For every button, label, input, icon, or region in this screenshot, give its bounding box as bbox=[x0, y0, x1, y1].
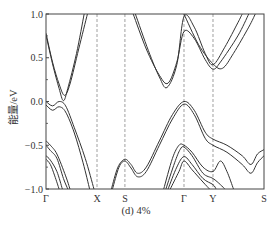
y-axis-label: 能量/eV bbox=[2, 72, 22, 142]
band-VB12 bbox=[170, 161, 209, 189]
x-tick-label: S bbox=[122, 193, 128, 204]
band-curves bbox=[46, 14, 264, 189]
band-structure-chart: 1.00.50.0−0.5−1.0 ΓXSΓYS bbox=[0, 0, 272, 225]
x-axis-ticks: ΓXSΓYS bbox=[43, 193, 267, 204]
y-axis-label-text: 能量/eV bbox=[5, 89, 20, 124]
x-tick-label: Γ bbox=[181, 193, 187, 204]
y-tick-label: 0.5 bbox=[31, 52, 44, 63]
band-VB3 bbox=[46, 141, 70, 189]
chart-caption: (d) 4% bbox=[0, 205, 272, 216]
x-tick-label: Y bbox=[209, 193, 216, 204]
y-tick-label: −1.0 bbox=[25, 184, 43, 195]
y-tick-label: 1.0 bbox=[31, 9, 44, 20]
y-axis-ticks: 1.00.50.0−0.5−1.0 bbox=[25, 9, 49, 195]
x-tick-label: X bbox=[93, 193, 101, 204]
x-tick-label: Γ bbox=[43, 193, 49, 204]
band-CB3 bbox=[133, 14, 249, 84]
y-tick-label: −0.5 bbox=[25, 140, 43, 151]
band-VB7 bbox=[111, 101, 264, 189]
band-VB8 bbox=[112, 104, 264, 189]
y-tick-label: 0.0 bbox=[31, 96, 44, 107]
x-tick-label: S bbox=[261, 193, 267, 204]
band-CB1 bbox=[46, 14, 87, 95]
